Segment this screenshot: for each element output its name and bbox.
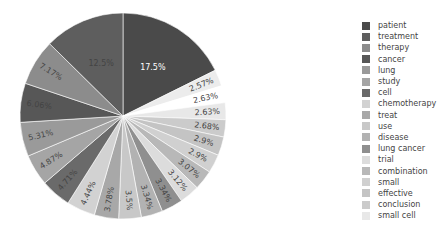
legend-item[interactable]: cell <box>362 87 436 98</box>
slice-label: 2.63% <box>194 107 220 117</box>
legend-label: lung cancer <box>378 144 425 153</box>
legend-item[interactable]: combination <box>362 165 436 176</box>
legend-label: small cell <box>378 211 416 220</box>
legend-swatch-icon <box>362 33 370 41</box>
legend-item[interactable]: trial <box>362 154 436 165</box>
legend-swatch-icon <box>362 133 370 141</box>
legend-label: combination <box>378 167 428 176</box>
legend-label: chemotherapy <box>378 99 436 108</box>
legend-swatch-icon <box>362 167 370 175</box>
legend-swatch-icon <box>362 122 370 130</box>
legend-swatch-icon <box>362 100 370 108</box>
legend-swatch-icon <box>362 145 370 153</box>
legend-label: use <box>378 122 392 131</box>
legend-item[interactable]: small <box>362 177 436 188</box>
slice-label: 3.5% <box>124 190 134 211</box>
legend-label: trial <box>378 155 394 164</box>
legend-item[interactable]: use <box>362 121 436 132</box>
legend-swatch-icon <box>362 22 370 30</box>
legend-label: conclusion <box>378 200 420 209</box>
legend-swatch-icon <box>362 55 370 63</box>
legend-item[interactable]: conclusion <box>362 199 436 210</box>
legend-swatch-icon <box>362 78 370 86</box>
legend-label: treat <box>378 111 397 120</box>
legend-swatch-icon <box>362 201 370 209</box>
legend-item[interactable]: small cell <box>362 210 436 221</box>
legend-label: effective <box>378 189 413 198</box>
legend-swatch-icon <box>362 178 370 186</box>
slice-label: 12.5% <box>88 59 114 68</box>
legend: patienttreatmenttherapycancerlungstudyce… <box>362 20 436 221</box>
legend-swatch-icon <box>362 66 370 74</box>
legend-item[interactable]: effective <box>362 188 436 199</box>
legend-item[interactable]: chemotherapy <box>362 98 436 109</box>
legend-item[interactable]: lung <box>362 65 436 76</box>
pie-chart: 17.5%2.57%2.63%2.63%2.68%2.9%2.9%3.07%3.… <box>0 0 250 235</box>
legend-item[interactable]: treat <box>362 110 436 121</box>
legend-swatch-icon <box>362 89 370 97</box>
legend-swatch-icon <box>362 212 370 220</box>
legend-item[interactable]: study <box>362 76 436 87</box>
legend-label: cancer <box>378 55 405 64</box>
legend-label: small <box>378 178 399 187</box>
legend-item[interactable]: lung cancer <box>362 143 436 154</box>
legend-item[interactable]: patient <box>362 20 436 31</box>
legend-label: disease <box>378 133 408 142</box>
legend-swatch-icon <box>362 111 370 119</box>
legend-item[interactable]: cancer <box>362 54 436 65</box>
legend-swatch-icon <box>362 156 370 164</box>
legend-label: cell <box>378 88 392 97</box>
legend-swatch-icon <box>362 189 370 197</box>
legend-swatch-icon <box>362 44 370 52</box>
legend-item[interactable]: disease <box>362 132 436 143</box>
legend-label: lung <box>378 66 395 75</box>
legend-label: treatment <box>378 32 418 41</box>
legend-label: patient <box>378 21 406 30</box>
legend-item[interactable]: treatment <box>362 31 436 42</box>
legend-item[interactable]: therapy <box>362 42 436 53</box>
slice-label: 17.5% <box>140 63 166 72</box>
legend-label: study <box>378 77 400 86</box>
legend-label: therapy <box>378 43 409 52</box>
